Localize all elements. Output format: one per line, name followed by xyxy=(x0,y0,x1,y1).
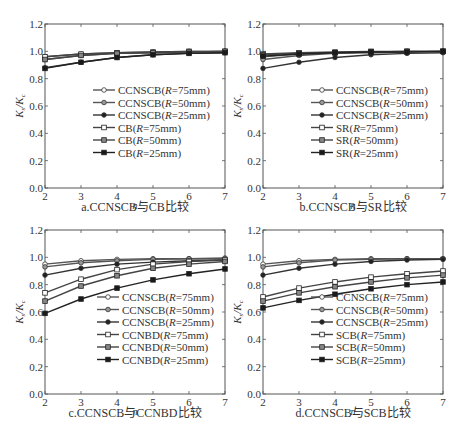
chart-panel-d: 0.00.20.40.60.81.01.2234567nKs/KcCCNSCB(… xyxy=(228,213,457,426)
data-point-marker xyxy=(43,299,48,304)
legend-label: SCB(R=25mm) xyxy=(336,354,406,367)
legend-marker xyxy=(320,345,325,350)
chart-b-svg: 0.00.20.40.60.81.01.2234567nKs/KcCCNSCB(… xyxy=(228,0,457,213)
legend-marker xyxy=(106,295,111,300)
legend-label: CCNBD(R=75mm) xyxy=(122,329,209,342)
data-point-marker xyxy=(261,265,266,270)
legend-label: CCNSCB(R=25mm) xyxy=(122,316,214,329)
y-tick-label: 0.8 xyxy=(29,73,43,85)
series-line xyxy=(261,256,446,266)
data-point-marker xyxy=(79,261,84,266)
chart-a-svg: 0.00.20.40.60.81.01.2234567nKs/KcCCNSCB(… xyxy=(0,0,230,213)
data-point-marker xyxy=(115,262,120,267)
legend-marker xyxy=(102,88,107,93)
legend-label: CCNSCB(R=50mm) xyxy=(336,97,428,110)
data-point-marker xyxy=(115,55,120,60)
data-point-marker xyxy=(43,291,48,296)
legend-label: CCNSCB(R=75mm) xyxy=(122,291,214,304)
legend-marker xyxy=(102,150,107,155)
legend-label: CCNBD(R=25mm) xyxy=(122,354,209,367)
data-point-marker xyxy=(151,278,156,283)
legend-marker xyxy=(320,320,325,325)
legend-marker xyxy=(320,150,325,155)
legend-marker xyxy=(106,357,111,362)
data-point-marker xyxy=(297,60,302,65)
legend-marker xyxy=(102,100,107,105)
y-tick-label: 1.2 xyxy=(247,224,261,236)
y-tick-label: 0.6 xyxy=(247,306,261,318)
series-line xyxy=(43,49,228,59)
chart-d-caption: d.CCNSCB与SCB比较 xyxy=(263,403,443,421)
y-tick-label: 0.2 xyxy=(29,155,43,167)
legend-label: CCNSCB(R=75mm) xyxy=(336,291,428,304)
y-tick-label: 0.4 xyxy=(29,127,43,139)
data-point-marker xyxy=(261,273,266,278)
legend-marker xyxy=(106,332,111,337)
legend-label: CCNSCB(R=25mm) xyxy=(118,109,210,122)
data-point-marker xyxy=(187,271,192,276)
legend-marker xyxy=(320,357,325,362)
data-point-marker xyxy=(43,265,48,270)
data-point-marker xyxy=(79,277,84,282)
y-tick-label: 0.4 xyxy=(247,333,261,345)
data-point-marker xyxy=(405,50,410,55)
data-point-marker xyxy=(43,66,48,71)
legend: CCNSCB(R=75mm)CCNSCB(R=50mm)CCNSCB(R=25m… xyxy=(93,84,210,160)
data-point-marker xyxy=(369,259,374,264)
chart-panel-c: 0.00.20.40.60.81.01.2234567nKs/KcCCNSCB(… xyxy=(0,213,230,426)
data-point-marker xyxy=(441,49,446,54)
legend-marker xyxy=(106,320,111,325)
legend-label: CCNSCB(R=25mm) xyxy=(336,316,428,329)
legend-label: CCNSCB(R=25mm) xyxy=(336,109,428,122)
data-point-marker xyxy=(223,267,228,272)
data-point-marker xyxy=(79,53,84,58)
y-axis-label: Ks/Kc xyxy=(231,93,245,118)
data-point-marker xyxy=(223,50,228,55)
legend: CCNSCB(R=75mm)CCNSCB(R=50mm)CCNSCB(R=25m… xyxy=(311,84,428,160)
legend-label: CCNBD(R=50mm) xyxy=(122,341,209,354)
y-tick-label: 1.0 xyxy=(247,251,261,263)
data-point-marker xyxy=(223,259,228,264)
data-point-marker xyxy=(79,60,84,65)
data-point-marker xyxy=(151,266,156,271)
legend-marker xyxy=(320,125,325,130)
legend-marker xyxy=(320,100,325,105)
y-tick-label: 0.2 xyxy=(247,361,261,373)
legend-marker xyxy=(102,113,107,118)
data-point-marker xyxy=(333,280,338,285)
legend-label: SR(R=50mm) xyxy=(336,134,398,147)
legend-label: SR(R=25mm) xyxy=(336,147,398,160)
y-tick-label: 1.2 xyxy=(247,18,261,30)
series-line xyxy=(43,49,228,59)
legend: CCNSCB(R=75mm)CCNSCB(R=50mm)CCNSCB(R=25m… xyxy=(97,291,214,367)
data-point-marker xyxy=(369,50,374,55)
legend-label: CCNSCB(R=75mm) xyxy=(118,84,210,97)
legend-label: CCNSCB(R=50mm) xyxy=(122,304,214,317)
data-point-marker xyxy=(297,298,302,303)
chart-d-svg: 0.00.20.40.60.81.01.2234567nKs/KcCCNSCB(… xyxy=(228,213,457,426)
data-point-marker xyxy=(297,266,302,271)
legend-label: SR(R=75mm) xyxy=(336,122,398,135)
data-point-marker xyxy=(261,306,266,311)
y-tick-label: 1.0 xyxy=(29,45,43,57)
y-tick-label: 0.8 xyxy=(29,279,43,291)
data-point-marker xyxy=(297,52,302,57)
legend-marker xyxy=(320,88,325,93)
data-point-marker xyxy=(79,266,84,271)
data-point-marker xyxy=(405,258,410,263)
y-tick-label: 0.8 xyxy=(247,279,261,291)
data-point-marker xyxy=(115,286,120,291)
y-tick-label: 0.6 xyxy=(29,100,43,112)
legend-marker xyxy=(320,138,325,143)
data-point-marker xyxy=(115,273,120,278)
data-point-marker xyxy=(369,275,374,280)
chart-panel-b: 0.00.20.40.60.81.01.2234567nKs/KcCCNSCB(… xyxy=(228,0,457,213)
data-point-marker xyxy=(261,299,266,304)
data-point-marker xyxy=(333,262,338,267)
legend-marker xyxy=(320,113,325,118)
legend-marker xyxy=(106,307,111,312)
legend-marker xyxy=(320,332,325,337)
legend-label: SCB(R=50mm) xyxy=(336,341,406,354)
chart-c-caption: c.CCNSCB与CCNBD比较 xyxy=(45,403,225,421)
data-point-marker xyxy=(441,273,446,278)
